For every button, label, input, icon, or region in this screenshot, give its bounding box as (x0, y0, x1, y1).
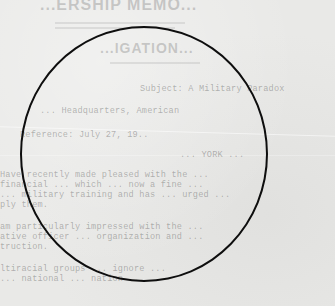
document-heading: ...ERSHIP MEMO... (40, 0, 197, 14)
scanned-document-page: ...ERSHIP MEMO... ...IGATION... Subject:… (0, 0, 335, 306)
paragraph-2-line: truction. (0, 242, 48, 252)
circle-annotation (20, 26, 268, 282)
heading-rule (55, 22, 185, 24)
